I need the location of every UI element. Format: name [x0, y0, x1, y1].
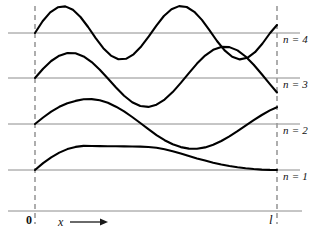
axis-x-symbol-label: x — [58, 215, 63, 230]
mode-label-n4-text: n = 4 — [283, 33, 308, 45]
mode-label-n2-text: n = 2 — [283, 124, 308, 136]
mode-label-n4: n = 4 — [283, 33, 308, 45]
axis-end-label: l — [269, 212, 273, 228]
axis-origin-label: 0 — [26, 213, 32, 228]
mode-label-n2: n = 2 — [283, 124, 308, 136]
standing-wave-figure: n = 4 n = 3 n = 2 n = 1 0 l x — [0, 0, 327, 248]
wave-plot-canvas — [0, 0, 327, 248]
x-direction-arrow — [70, 218, 108, 225]
wave-curve-n1 — [35, 146, 277, 170]
mode-baselines — [8, 33, 300, 170]
mode-label-n1-text: n = 1 — [283, 170, 308, 182]
mode-label-n1: n = 1 — [283, 170, 308, 182]
mode-label-n3-text: n = 3 — [283, 78, 308, 90]
wave-curve-n3 — [35, 47, 277, 107]
mode-label-n3: n = 3 — [283, 78, 308, 90]
